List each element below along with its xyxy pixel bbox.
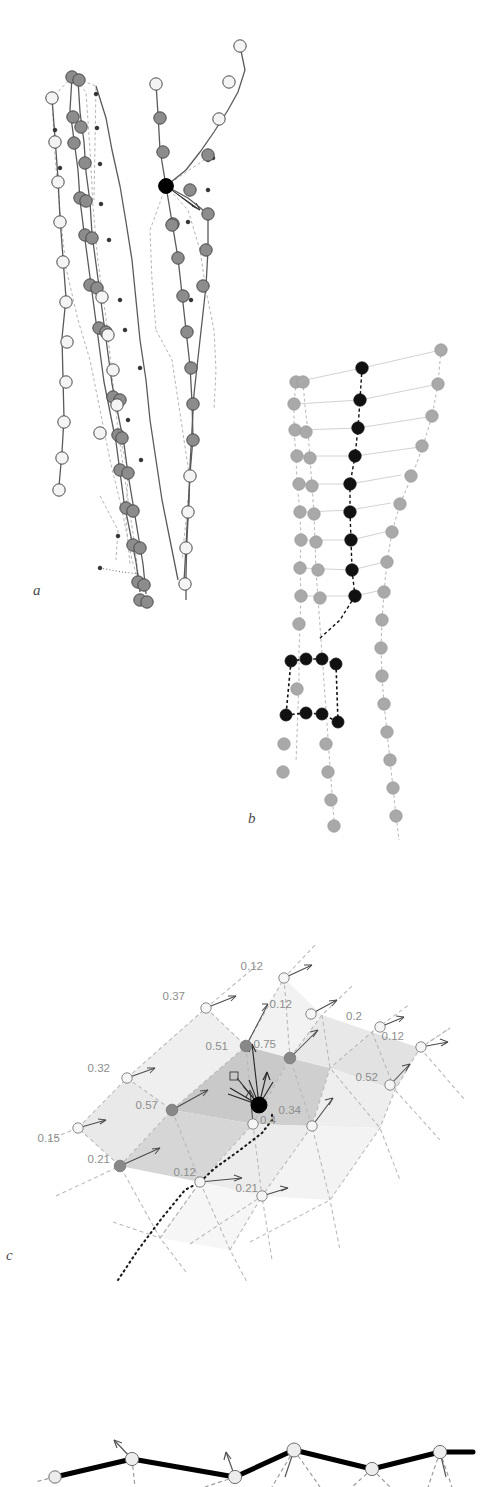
panel-d-graphic <box>0 0 499 1487</box>
panel-label-c: c <box>6 1247 13 1264</box>
panel-label-b: b <box>248 810 256 827</box>
panel-label-a: a <box>33 582 41 599</box>
figure-canvas: 0.37 0.12 0.12 0.2 0.12 0.51 0.75 0.52 0… <box>0 0 499 1487</box>
panel-d-thick-polyline <box>55 1450 473 1477</box>
